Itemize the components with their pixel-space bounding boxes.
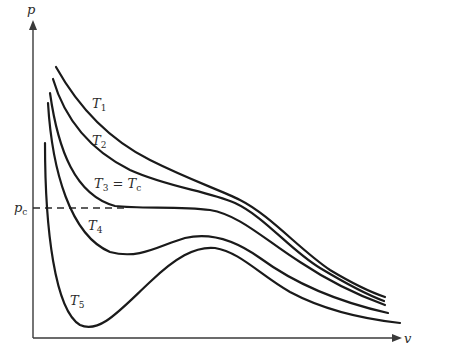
label-t3-equals-tc: T3 = Tc — [94, 176, 141, 193]
x-axis-label: v — [404, 331, 412, 346]
y-axis-arrow-icon — [29, 20, 37, 30]
critical-pressure-label: pc — [14, 200, 27, 217]
y-axis-label: p — [27, 2, 36, 17]
x-axis-arrow-icon — [392, 334, 402, 342]
label-t5: T5 — [70, 293, 85, 310]
pv-diagram: p v pc T1 T2 T3 = Tc T4 T5 — [0, 0, 452, 353]
label-t2: T2 — [92, 133, 106, 150]
label-t4: T4 — [88, 218, 103, 235]
isotherm-t1 — [56, 67, 385, 297]
label-t1: T1 — [92, 96, 106, 113]
